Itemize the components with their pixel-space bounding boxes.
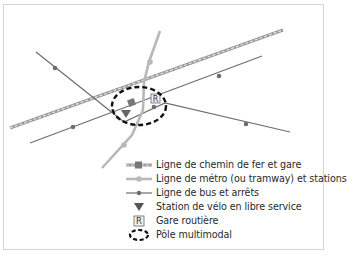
bus-stop-icon <box>53 66 58 71</box>
bus-line-1 <box>36 52 290 132</box>
metro-station-icon <box>147 59 153 65</box>
legend-label: Ligne de bus et arrêts <box>156 186 259 200</box>
bike-station-triangle-icon <box>122 200 154 214</box>
rail-line <box>10 30 283 128</box>
legend-label: Gare routière <box>156 214 218 228</box>
bus-stop-icon <box>244 122 249 127</box>
bus-terminal-icon: R <box>151 94 160 104</box>
bike-station-icon <box>121 110 131 118</box>
legend-label: Station de vélo en libre service <box>156 200 302 214</box>
legend-label: Ligne de métro (ou tramway) et stations <box>156 172 347 186</box>
metro-station-icon <box>121 142 127 148</box>
bus-stop-icon <box>152 105 157 110</box>
legend-label: Ligne de chemin de fer et gare <box>156 158 301 172</box>
rail-line-with-station-icon <box>122 158 154 172</box>
bus-stop-icon <box>217 74 222 79</box>
svg-text:R: R <box>153 95 159 104</box>
legend-label: Pôle multimodal <box>156 228 232 242</box>
bus-line-with-stop-icon <box>122 186 154 200</box>
svg-text:R: R <box>136 216 142 226</box>
multimodal-hub-ellipse-icon <box>122 228 154 242</box>
bus-terminal-r-icon: R <box>122 214 154 228</box>
metro-line-with-station-icon <box>122 172 154 186</box>
bus-stop-icon <box>71 125 76 130</box>
